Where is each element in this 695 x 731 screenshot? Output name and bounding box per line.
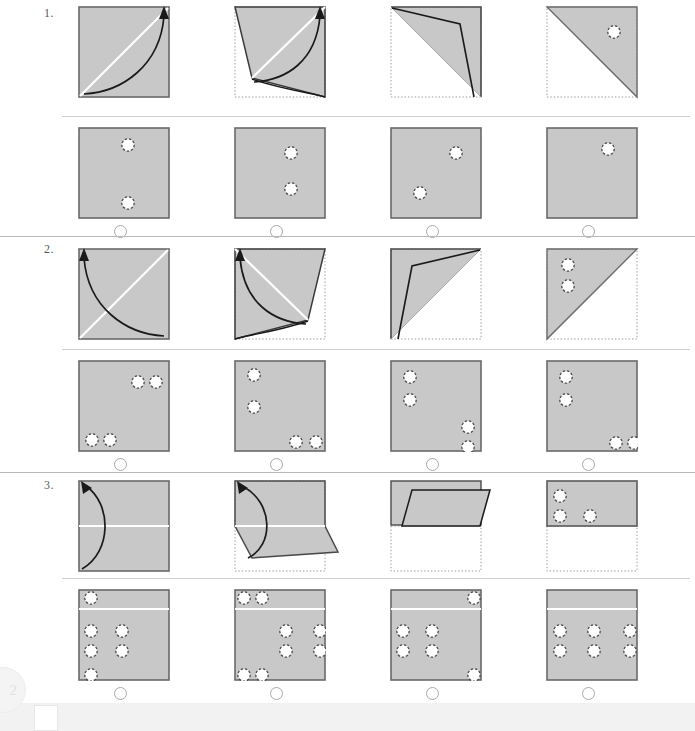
option-paper [234, 589, 326, 681]
fold-step-3-4 [546, 480, 646, 584]
option-1C[interactable] [390, 127, 490, 247]
option-paper [390, 360, 482, 452]
option-paper [78, 360, 170, 452]
option-paper [546, 127, 638, 219]
option-2C[interactable] [390, 360, 490, 480]
option-paper [390, 589, 482, 681]
fold-diagram [390, 248, 482, 340]
fold-diagram-with-punch [546, 6, 638, 98]
paper-folding-test-page: 1. [0, 0, 695, 731]
option-2D[interactable] [546, 360, 646, 480]
option-paper [234, 127, 326, 219]
question-number-3: 3. [44, 478, 54, 493]
option-paper [390, 127, 482, 219]
fold-step-3-1 [78, 480, 178, 584]
fold-diagram [234, 480, 326, 572]
option-1A[interactable] [78, 127, 178, 247]
fold-diagram [78, 248, 170, 340]
option-3D[interactable] [546, 589, 646, 709]
fold-step-3-3 [390, 480, 490, 584]
question-divider [0, 236, 695, 237]
option-2A[interactable] [78, 360, 178, 480]
option-paper [546, 360, 638, 452]
option-3A[interactable] [78, 589, 178, 709]
footer-input-box[interactable] [34, 705, 58, 731]
option-radio-2A[interactable] [114, 458, 127, 471]
fold-step-2-3 [390, 248, 490, 352]
fold-diagram-with-punch [546, 480, 638, 572]
footer-band [0, 703, 695, 731]
question-number-1: 1. [44, 6, 54, 21]
option-paper [78, 127, 170, 219]
option-paper [78, 589, 170, 681]
option-1D[interactable] [546, 127, 646, 247]
section-divider [62, 349, 690, 350]
fold-diagram [234, 248, 326, 340]
fold-diagram [390, 480, 482, 572]
option-2B[interactable] [234, 360, 334, 480]
fold-step-1-3 [390, 6, 490, 110]
option-radio-2C[interactable] [426, 458, 439, 471]
option-radio-2B[interactable] [270, 458, 283, 471]
fold-step-1-1 [78, 6, 178, 110]
fold-step-2-2 [234, 248, 334, 352]
fold-diagram [390, 6, 482, 98]
fold-diagram [234, 6, 326, 98]
option-1B[interactable] [234, 127, 334, 247]
question-number-2: 2. [44, 242, 54, 257]
option-paper [234, 360, 326, 452]
fold-diagram-with-punch [546, 248, 638, 340]
option-radio-3B[interactable] [270, 687, 283, 700]
section-divider [62, 578, 690, 579]
option-radio-3D[interactable] [582, 687, 595, 700]
option-3C[interactable] [390, 589, 490, 709]
fold-step-2-4 [546, 248, 646, 352]
fold-diagram [78, 480, 170, 572]
option-radio-3A[interactable] [114, 687, 127, 700]
option-radio-2D[interactable] [582, 458, 595, 471]
option-radio-3C[interactable] [426, 687, 439, 700]
fold-step-2-1 [78, 248, 178, 352]
question-block-1: 1. [0, 0, 695, 236]
option-paper [546, 589, 638, 681]
section-divider [62, 116, 690, 117]
fold-diagram [78, 6, 170, 98]
question-block-2: 2. [0, 236, 695, 472]
fold-step-1-2 [234, 6, 334, 110]
question-block-3: 3. [0, 472, 695, 703]
option-3B[interactable] [234, 589, 334, 709]
fold-step-3-2 [234, 480, 334, 584]
fold-step-1-4 [546, 6, 646, 110]
question-divider [0, 472, 695, 473]
